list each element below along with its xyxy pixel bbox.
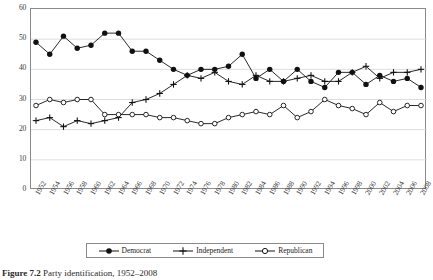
- series-republican: [34, 97, 424, 126]
- plus-marker-icon: [172, 246, 194, 256]
- chart-canvas: [31, 9, 427, 190]
- figure-party-identification: 0102030405060 19521954195619581960196219…: [0, 0, 433, 280]
- legend-item-democrat: Democrat: [98, 246, 152, 256]
- y-tick-label: 20: [0, 124, 26, 133]
- figure-caption: Figure 7.2 Party identification, 1952–20…: [2, 268, 432, 278]
- legend-label-republican: Republican: [278, 246, 312, 255]
- y-tick-label: 50: [0, 33, 26, 42]
- y-tick-label: 0: [0, 184, 26, 193]
- caption-text: Party identification, 1952–2008: [43, 268, 157, 278]
- legend-item-independent: Independent: [172, 246, 233, 256]
- chart-plot-area: [30, 8, 426, 189]
- y-tick-label: 30: [0, 94, 26, 103]
- y-tick-label: 10: [0, 154, 26, 163]
- chart-legend: Democrat Independent Republican: [86, 243, 324, 258]
- filled-circle-marker-icon: [98, 246, 120, 256]
- y-tick-label: 60: [0, 3, 26, 12]
- legend-label-democrat: Democrat: [122, 246, 152, 255]
- open-circle-marker-icon: [254, 246, 276, 256]
- y-tick-label: 40: [0, 63, 26, 72]
- caption-number: Figure 7.2: [2, 268, 41, 278]
- legend-label-independent: Independent: [196, 246, 233, 255]
- legend-item-republican: Republican: [254, 246, 312, 256]
